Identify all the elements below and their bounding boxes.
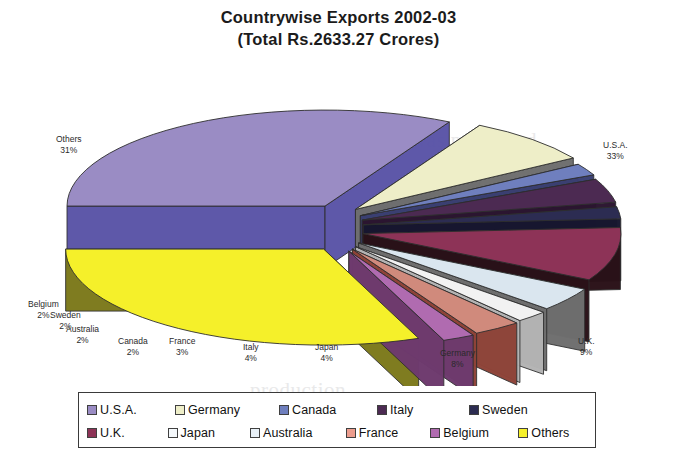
legend-item-belgium[interactable]: Belgium [430,426,518,440]
legend-row-2: U.K.JapanAustraliaFranceBelgiumOthers [79,421,595,444]
legend-label: U.S.A. [100,403,137,417]
slice-label-others: Others31% [56,134,82,155]
legend-swatch-icon [377,405,387,415]
chart-title: Countrywise Exports 2002-03 [0,6,677,28]
legend-item-australia[interactable]: Australia [250,426,346,440]
legend-label: Australia [263,426,313,440]
legend-label: Belgium [443,426,489,440]
legend-label: France [359,426,399,440]
legend-label: Germany [188,403,240,417]
legend-swatch-icon [175,405,185,415]
legend-item-france[interactable]: France [346,426,430,440]
legend-item-usa[interactable]: U.S.A. [87,403,175,417]
legend-swatch-icon [430,428,440,438]
pie-chart: Countrywise Exports 2002-03 (Total Rs.26… [0,0,677,460]
slice-label-japan: Japan4% [315,342,338,363]
legend-label: Canada [292,403,336,417]
legend-label: Sweden [482,403,528,417]
legend-label: U.K. [100,426,125,440]
legend-row-1: U.S.A.GermanyCanadaItalySweden [79,398,595,421]
legend-item-uk[interactable]: U.K. [87,426,168,440]
slice-label-france: France3% [169,336,195,357]
chart-subtitle: (Total Rs.2633.27 Crores) [0,28,677,50]
legend-swatch-icon [346,428,356,438]
legend-label: Japan [181,426,216,440]
legend-item-italy[interactable]: Italy [377,403,469,417]
legend-item-others[interactable]: Others [518,426,595,440]
pie-graphic [0,96,677,386]
slice-label-uk: U.K.9% [578,336,595,357]
pie-plot-area: Others31% U.S.A.33% Belgium2% Sweden2% A… [0,96,677,386]
slice-label-italy: Italy4% [243,342,259,363]
legend-swatch-icon [518,428,528,438]
chart-title-block: Countrywise Exports 2002-03 (Total Rs.26… [0,6,677,50]
slice-label-usa: U.S.A.33% [603,140,628,161]
legend-swatch-icon [168,428,178,438]
legend-swatch-icon [87,428,97,438]
legend-swatch-icon [279,405,289,415]
legend-label: Italy [390,403,413,417]
slice-label-germany: Germany8% [440,348,475,369]
slice-label-canada: Canada2% [118,336,148,357]
legend-item-germany[interactable]: Germany [175,403,279,417]
legend-label: Others [531,426,569,440]
slice-label-australia: Australia2% [66,324,99,345]
legend-swatch-icon [469,405,479,415]
legend-item-sweden[interactable]: Sweden [469,403,559,417]
legend-swatch-icon [87,405,97,415]
legend-item-japan[interactable]: Japan [168,426,250,440]
legend-swatch-icon [250,428,260,438]
legend-item-canada[interactable]: Canada [279,403,377,417]
chart-legend: U.S.A.GermanyCanadaItalySweden U.K.Japan… [78,392,596,448]
